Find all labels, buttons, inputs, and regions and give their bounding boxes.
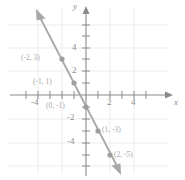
- coordinate-graph: y x -4 2 4 4 2 -2 -4 (-2, 3) (-1, 1) (0,…: [0, 0, 185, 180]
- point-label--1-1: (-1, 1): [33, 77, 52, 86]
- point-marker: [71, 80, 76, 85]
- x-axis-label: x: [174, 97, 178, 107]
- point-marker: [59, 56, 64, 61]
- grid-lines: [8, 8, 168, 174]
- x-tick-label-4: 4: [131, 97, 136, 107]
- y-tick-label--2: -2: [67, 112, 75, 122]
- line-arrow-lower: [112, 164, 122, 176]
- graph-canvas: [0, 0, 185, 180]
- y-axis-label: y: [73, 1, 77, 11]
- y-axis-arrow: [83, 6, 90, 14]
- point-marker: [95, 128, 100, 133]
- point-label-1--3: (1, -3): [102, 125, 121, 134]
- y-tick-label-4: 4: [72, 42, 77, 52]
- x-tick-label--4: -4: [31, 97, 39, 107]
- x-axis-arrow: [165, 92, 173, 99]
- line-arrow-upper: [36, 9, 46, 21]
- axis-arrowheads: [83, 6, 174, 99]
- y-tick-label--4: -4: [67, 136, 75, 146]
- point-label-2--5: (2, -5): [114, 150, 133, 159]
- point-label-0--1: (0, -1): [46, 101, 65, 110]
- axes: [10, 14, 165, 176]
- x-tick-label-2: 2: [107, 97, 112, 107]
- plotted-line: [36, 9, 121, 175]
- point-marker: [107, 152, 112, 157]
- y-tick-label-2: 2: [72, 65, 77, 75]
- point-marker: [83, 104, 88, 109]
- point-label--2-3: (-2, 3): [21, 53, 40, 62]
